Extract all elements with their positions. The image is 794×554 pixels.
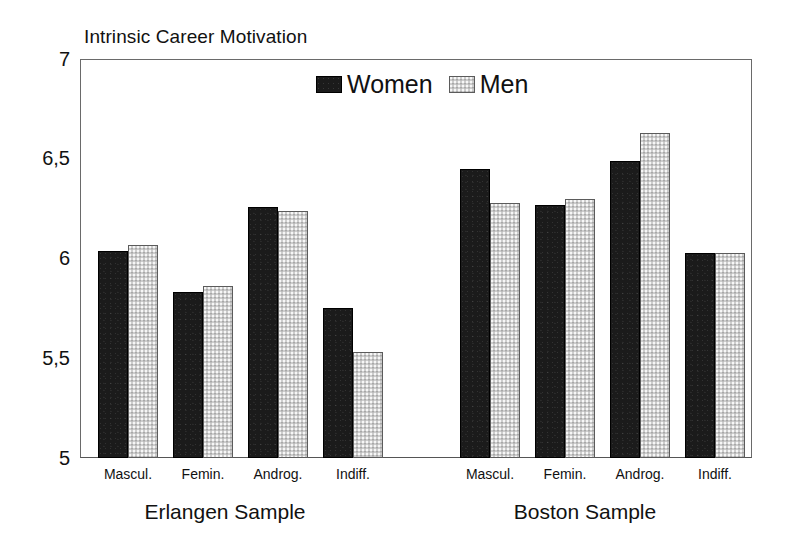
category-label-erlangen-1: Femin. xyxy=(164,466,242,482)
bar-erlangen-mascul-men xyxy=(128,245,158,458)
bar-erlangen-indiff-women xyxy=(323,308,353,458)
y-tick-7: 7 xyxy=(6,48,70,71)
legend-item-women: Women xyxy=(316,72,433,97)
bar-erlangen-femin-women xyxy=(173,292,203,458)
category-label-boston-3: Indiff. xyxy=(676,466,754,482)
category-label-erlangen-2: Androg. xyxy=(239,466,317,482)
legend-label-women: Women xyxy=(347,72,433,97)
bar-boston-mascul-women xyxy=(460,169,490,458)
category-label-boston-1: Femin. xyxy=(526,466,604,482)
bar-erlangen-androg-women xyxy=(248,207,278,458)
chart-legend: Women Men xyxy=(316,72,528,97)
legend-label-men: Men xyxy=(480,72,529,97)
bar-erlangen-femin-men xyxy=(203,286,233,458)
group-label-boston: Boston Sample xyxy=(455,500,715,524)
chart-title: Intrinsic Career Motivation xyxy=(84,26,307,48)
dark-swatch-icon xyxy=(316,76,342,93)
bar-erlangen-androg-men xyxy=(278,211,308,458)
bar-boston-mascul-men xyxy=(490,203,520,458)
bar-erlangen-mascul-women xyxy=(98,251,128,458)
category-label-boston-0: Mascul. xyxy=(451,466,529,482)
bar-boston-androg-women xyxy=(610,161,640,458)
y-tick-6-5: 6,5 xyxy=(6,147,70,170)
light-swatch-icon xyxy=(449,76,475,93)
category-label-erlangen-0: Mascul. xyxy=(89,466,167,482)
bars-layer xyxy=(80,59,752,458)
legend-item-men: Men xyxy=(449,72,529,97)
y-tick-5-5: 5,5 xyxy=(6,347,70,370)
intrinsic-career-motivation-chart: Intrinsic Career Motivation 7 6,5 6 5,5 … xyxy=(0,0,794,554)
category-label-erlangen-3: Indiff. xyxy=(314,466,392,482)
y-tick-6: 6 xyxy=(6,247,70,270)
bar-boston-femin-women xyxy=(535,205,565,458)
bar-boston-femin-men xyxy=(565,199,595,458)
category-label-boston-2: Androg. xyxy=(601,466,679,482)
category-axis-labels: Mascul.Femin.Androg.Indiff.Mascul.Femin.… xyxy=(80,466,752,490)
bar-boston-androg-men xyxy=(640,133,670,458)
bar-boston-indiff-women xyxy=(685,253,715,458)
y-tick-5: 5 xyxy=(6,447,70,470)
bar-boston-indiff-men xyxy=(715,253,745,458)
group-label-erlangen: Erlangen Sample xyxy=(95,500,355,524)
bar-erlangen-indiff-men xyxy=(353,352,383,458)
